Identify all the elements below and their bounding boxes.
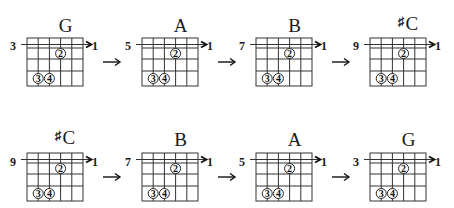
arrow-icon bbox=[218, 59, 235, 66]
fretboard-b-bottom bbox=[136, 153, 207, 201]
arrow-icon bbox=[103, 174, 120, 181]
fretboard-grids: 2 3 4 bbox=[0, 0, 454, 208]
arrow-icon bbox=[332, 174, 349, 181]
arrow-icon bbox=[103, 59, 120, 66]
fretboard-b-top bbox=[250, 38, 321, 86]
fretboard-csharp-bottom bbox=[21, 153, 92, 201]
fretboard-g-top bbox=[21, 38, 92, 86]
fretboard-csharp-top bbox=[364, 38, 435, 86]
fretboard-a-top bbox=[136, 38, 207, 86]
fretboard-a-bottom bbox=[250, 153, 321, 201]
arrow-icon bbox=[332, 59, 349, 66]
fretboard-g-bottom bbox=[364, 153, 435, 201]
arrow-icon bbox=[218, 174, 235, 181]
